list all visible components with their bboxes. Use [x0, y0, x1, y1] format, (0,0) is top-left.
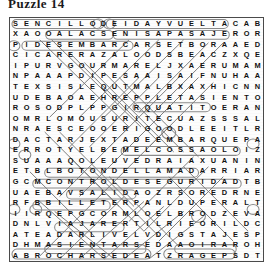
- grid-cell[interactable]: E: [87, 134, 98, 145]
- grid-cell[interactable]: R: [230, 187, 241, 198]
- grid-cell[interactable]: A: [98, 39, 109, 50]
- grid-cell[interactable]: X: [230, 50, 241, 61]
- grid-cell[interactable]: X: [197, 81, 208, 92]
- grid-cell[interactable]: L: [186, 124, 197, 135]
- grid-cell[interactable]: J: [164, 60, 175, 71]
- grid-cell[interactable]: U: [21, 155, 32, 166]
- grid-cell[interactable]: E: [21, 18, 32, 29]
- grid-cell[interactable]: D: [186, 166, 197, 177]
- grid-cell[interactable]: I: [142, 219, 153, 230]
- grid-cell[interactable]: P: [21, 71, 32, 82]
- grid-cell[interactable]: E: [186, 50, 197, 61]
- grid-cell[interactable]: R: [32, 145, 43, 156]
- grid-cell[interactable]: N: [241, 187, 252, 198]
- grid-cell[interactable]: N: [120, 29, 131, 40]
- grid-cell[interactable]: E: [131, 250, 142, 261]
- grid-cell[interactable]: J: [76, 134, 87, 145]
- grid-cell[interactable]: N: [21, 219, 32, 230]
- grid-cell[interactable]: O: [98, 124, 109, 135]
- grid-cell[interactable]: S: [197, 92, 208, 103]
- grid-cell[interactable]: T: [175, 92, 186, 103]
- grid-cell[interactable]: P: [98, 71, 109, 82]
- grid-cell[interactable]: E: [142, 60, 153, 71]
- grid-cell[interactable]: S: [10, 155, 21, 166]
- grid-cell[interactable]: E: [208, 124, 219, 135]
- grid-cell[interactable]: S: [175, 187, 186, 198]
- grid-cell[interactable]: R: [252, 29, 263, 40]
- grid-cell[interactable]: D: [54, 103, 65, 114]
- grid-cell[interactable]: Z: [219, 208, 230, 219]
- grid-cell[interactable]: C: [230, 18, 241, 29]
- grid-cell[interactable]: A: [87, 50, 98, 61]
- grid-cell[interactable]: N: [230, 155, 241, 166]
- grid-cell[interactable]: D: [10, 134, 21, 145]
- grid-cell[interactable]: I: [230, 166, 241, 177]
- grid-cell[interactable]: L: [252, 113, 263, 124]
- grid-cell[interactable]: R: [109, 92, 120, 103]
- grid-cell[interactable]: O: [32, 29, 43, 40]
- grid-cell[interactable]: L: [164, 198, 175, 209]
- grid-cell[interactable]: S: [32, 103, 43, 114]
- grid-cell[interactable]: A: [186, 92, 197, 103]
- grid-cell[interactable]: S: [186, 29, 197, 40]
- grid-cell[interactable]: O: [197, 219, 208, 230]
- grid-cell[interactable]: S: [54, 39, 65, 50]
- grid-cell[interactable]: I: [219, 219, 230, 230]
- grid-cell[interactable]: X: [197, 155, 208, 166]
- grid-cell[interactable]: Y: [65, 145, 76, 156]
- grid-cell[interactable]: R: [208, 166, 219, 177]
- grid-cell[interactable]: C: [87, 29, 98, 40]
- grid-cell[interactable]: E: [76, 145, 87, 156]
- grid-cell[interactable]: B: [175, 50, 186, 61]
- grid-cell[interactable]: S: [65, 81, 76, 92]
- grid-cell[interactable]: M: [120, 208, 131, 219]
- grid-cell[interactable]: O: [87, 18, 98, 29]
- grid-cell[interactable]: A: [153, 29, 164, 40]
- grid-cell[interactable]: O: [186, 240, 197, 251]
- grid-cell[interactable]: S: [153, 39, 164, 50]
- grid-cell[interactable]: E: [109, 250, 120, 261]
- grid-cell[interactable]: R: [10, 198, 21, 209]
- grid-cell[interactable]: G: [142, 124, 153, 135]
- grid-cell[interactable]: R: [164, 219, 175, 230]
- grid-cell[interactable]: E: [142, 134, 153, 145]
- grid-cell[interactable]: A: [186, 134, 197, 145]
- grid-cell[interactable]: P: [65, 71, 76, 82]
- grid-cell[interactable]: R: [76, 50, 87, 61]
- grid-cell[interactable]: I: [186, 71, 197, 82]
- grid-cell[interactable]: D: [54, 229, 65, 240]
- grid-cell[interactable]: A: [153, 166, 164, 177]
- grid-cell[interactable]: M: [32, 240, 43, 251]
- grid-cell[interactable]: R: [208, 240, 219, 251]
- grid-cell[interactable]: R: [21, 124, 32, 135]
- grid-cell[interactable]: T: [120, 81, 131, 92]
- grid-cell[interactable]: L: [87, 145, 98, 156]
- grid-cell[interactable]: E: [131, 176, 142, 187]
- grid-cell[interactable]: O: [76, 113, 87, 124]
- grid-cell[interactable]: L: [153, 92, 164, 103]
- grid-cell[interactable]: R: [120, 240, 131, 251]
- grid-cell[interactable]: A: [186, 155, 197, 166]
- grid-cell[interactable]: C: [120, 39, 131, 50]
- grid-cell[interactable]: R: [208, 60, 219, 71]
- grid-cell[interactable]: B: [54, 166, 65, 177]
- grid-cell[interactable]: L: [153, 60, 164, 71]
- grid-cell[interactable]: E: [120, 229, 131, 240]
- grid-cell[interactable]: N: [230, 92, 241, 103]
- grid-cell[interactable]: B: [175, 134, 186, 145]
- grid-cell[interactable]: H: [208, 81, 219, 92]
- grid-cell[interactable]: A: [186, 113, 197, 124]
- grid-cell[interactable]: Z: [98, 50, 109, 61]
- grid-cell[interactable]: E: [65, 39, 76, 50]
- grid-cell[interactable]: N: [252, 155, 263, 166]
- grid-cell[interactable]: Q: [142, 103, 153, 114]
- grid-cell[interactable]: O: [252, 92, 263, 103]
- grid-cell[interactable]: L: [219, 145, 230, 156]
- grid-cell[interactable]: P: [197, 198, 208, 209]
- grid-cell[interactable]: R: [32, 208, 43, 219]
- grid-cell[interactable]: V: [43, 219, 54, 230]
- grid-cell[interactable]: I: [131, 113, 142, 124]
- grid-cell[interactable]: E: [109, 198, 120, 209]
- grid-cell[interactable]: A: [219, 240, 230, 251]
- grid-cell[interactable]: Q: [98, 81, 109, 92]
